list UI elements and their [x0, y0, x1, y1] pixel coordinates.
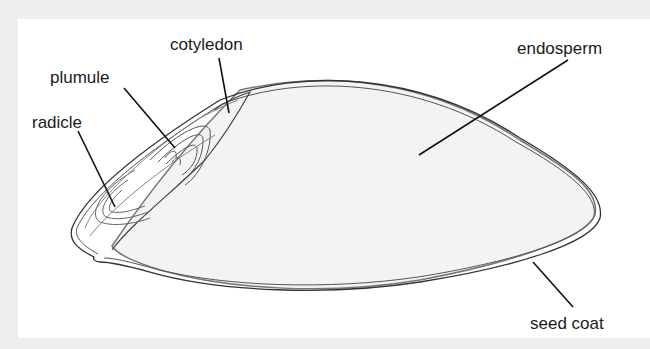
label-cotyledon: cotyledon — [170, 36, 243, 53]
label-endosperm: endosperm — [517, 40, 602, 57]
seed-coat-leader-line — [533, 262, 573, 307]
plumule-leader-line — [124, 88, 175, 148]
endosperm-region — [112, 81, 596, 289]
label-seed-coat: seed coat — [530, 315, 604, 332]
label-radicle: radicle — [32, 114, 82, 131]
radicle-leader-line — [78, 131, 115, 207]
label-plumule: plumule — [50, 69, 110, 86]
